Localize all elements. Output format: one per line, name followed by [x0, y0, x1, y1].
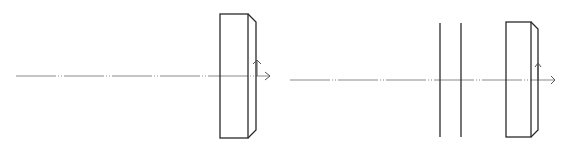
- optics-diagram: [0, 0, 570, 149]
- left-panel: [16, 14, 270, 138]
- right-panel: [290, 22, 555, 137]
- plate-chamfer: [248, 14, 256, 138]
